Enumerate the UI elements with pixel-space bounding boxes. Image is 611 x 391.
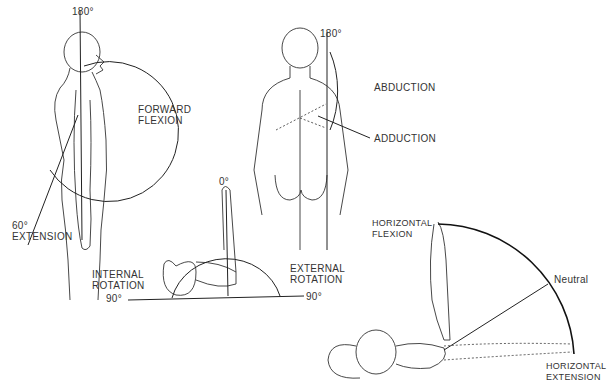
horizontal-extension-label: HORIZONTAL EXTENSION: [546, 361, 606, 383]
rotation-0-label: 0°: [219, 176, 229, 187]
external-rotation-label: EXTERNAL ROTATION: [290, 263, 345, 285]
internal-rotation-angle: 90°: [106, 293, 122, 304]
diagram-drawing: [0, 0, 611, 391]
extension-angle-label: 60°: [12, 220, 28, 231]
side-view-180-label: 180°: [72, 6, 94, 17]
adduction-label: ADDUCTION: [374, 133, 436, 144]
back-view-180-label: 180°: [320, 28, 342, 39]
shoulder-range-of-motion-diagram: 180° FORWARD FLEXION 60° EXTENSION 180° …: [0, 0, 611, 391]
external-rotation-angle: 90°: [306, 291, 322, 302]
neutral-label: Neutral: [554, 274, 588, 285]
forward-flexion-label: FORWARD FLEXION: [138, 104, 191, 126]
side-view-figure: [28, 10, 179, 300]
horizontal-figure: [328, 222, 574, 378]
extension-label: EXTENSION: [12, 231, 73, 242]
back-view-figure: [254, 28, 370, 250]
internal-rotation-label: INTERNAL ROTATION: [92, 269, 145, 291]
abduction-label: ABDUCTION: [374, 82, 436, 93]
horizontal-flexion-label: HORIZONTAL FLEXION: [372, 218, 432, 240]
rotation-figure: [128, 187, 304, 301]
